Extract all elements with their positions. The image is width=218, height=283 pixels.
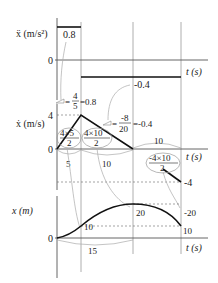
accel-ylabel: ẍ (m/s²) bbox=[16, 28, 48, 40]
velocity-tick-bottom: -4 bbox=[184, 177, 192, 188]
velocity-zero-label: 0 bbox=[48, 144, 53, 155]
slope-annotation-2: = -8 20 =-0.4 bbox=[103, 113, 153, 134]
velocity-ylabel: ẋ (m/s) bbox=[16, 118, 45, 130]
position-tlabel: t (s) bbox=[186, 242, 203, 254]
position-ylabel: x (m) bbox=[11, 205, 33, 217]
position-plot: x (m) 0 t (s) 10 20 -20 10 15 bbox=[11, 196, 208, 278]
slope2-den: 20 bbox=[119, 124, 129, 134]
area-annotation-3: -4×10 2 bbox=[146, 153, 180, 173]
triangle-icon bbox=[103, 121, 111, 125]
accel-label-negative: -0.4 bbox=[134, 79, 150, 90]
svg-text:4×5: 4×5 bbox=[60, 128, 75, 138]
svg-text:2: 2 bbox=[160, 163, 165, 173]
accel-annotation-arrows bbox=[61, 42, 130, 120]
position-label-10-first: 10 bbox=[84, 222, 94, 232]
accel-zero-label: 0 bbox=[48, 55, 53, 66]
span-label-2: 10 bbox=[102, 159, 112, 169]
span-label-3: 10 bbox=[154, 136, 164, 146]
position-label-20: 20 bbox=[136, 208, 146, 218]
svg-text:=: = bbox=[65, 97, 70, 107]
accel-label-positive: 0.8 bbox=[63, 29, 76, 40]
slope-annotation-1: = 4 5 =0.8 bbox=[56, 91, 97, 111]
slope1-den: 5 bbox=[73, 101, 78, 111]
position-zero-label: 0 bbox=[48, 233, 53, 244]
acceleration-plot: ẍ (m/s²) 0 t (s) 0.8 -0.4 bbox=[16, 18, 208, 100]
svg-text:2: 2 bbox=[67, 138, 72, 148]
area-annotation-1: 4×5 2 bbox=[57, 128, 81, 148]
velocity-plot: ẋ (m/s) 4 0 t (s) -4 = 4 5 =0.8 = -8 20 … bbox=[16, 91, 208, 190]
slope1-result: =0.8 bbox=[80, 97, 97, 107]
slope1-num: 4 bbox=[73, 91, 78, 101]
area-annotation-2: 4×10 2 bbox=[82, 128, 112, 148]
slope2-num: -8 bbox=[121, 113, 129, 123]
svg-text:2: 2 bbox=[94, 138, 99, 148]
svg-text:-4×10: -4×10 bbox=[149, 153, 171, 163]
velocity-tick-top: 4 bbox=[48, 110, 53, 121]
position-label-10-last: 10 bbox=[183, 226, 193, 236]
span-arc-15 bbox=[57, 240, 133, 245]
slope2-result: =-0.4 bbox=[133, 119, 153, 129]
position-label-delta: -20 bbox=[184, 208, 196, 218]
svg-text:4×10: 4×10 bbox=[84, 128, 103, 138]
position-span-label: 15 bbox=[88, 246, 98, 256]
velocity-tlabel: t (s) bbox=[186, 151, 203, 163]
kinematics-diagram: ẍ (m/s²) 0 t (s) 0.8 -0.4 ẋ (m/s) 4 0 t … bbox=[0, 0, 218, 283]
accel-tlabel: t (s) bbox=[186, 66, 203, 78]
svg-text:=: = bbox=[112, 119, 117, 129]
